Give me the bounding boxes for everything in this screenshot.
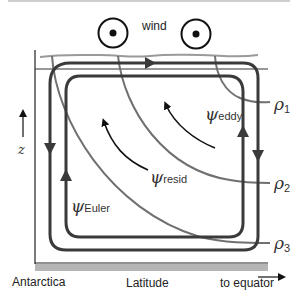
rho1-label: ρ1	[273, 94, 290, 115]
seafloor-bar	[35, 264, 268, 271]
rho2-label: ρ2	[273, 173, 290, 194]
psi-resid-label: ψresid	[150, 167, 187, 187]
resid-curved-arrow-icon	[104, 122, 148, 170]
isopycnal-rho3-line	[52, 56, 270, 243]
loop-arrow-right-icon	[145, 57, 156, 69]
sea-surface-line	[40, 55, 258, 57]
euler-outer-loop	[50, 63, 258, 250]
wind-symbol-left-icon	[99, 19, 128, 48]
antarctica-label: Antarctica	[12, 275, 66, 289]
psi-euler-label: ψEuler	[71, 196, 110, 216]
wind-label: wind	[141, 19, 167, 33]
wind-symbol-right-icon	[182, 20, 211, 49]
latitude-label: Latitude	[126, 276, 169, 290]
z-axis-label: z	[17, 142, 25, 157]
loop-arrow-down-left-icon	[44, 143, 56, 155]
rho3-label: ρ3	[273, 233, 290, 254]
loop-arrow-up-left-icon	[60, 169, 72, 181]
psi-eddy-label: ψeddy	[205, 104, 243, 124]
to-equator-label: to equator	[220, 276, 274, 290]
loop-arrow-down-right-icon	[252, 150, 264, 162]
southern-ocean-overturning-diagram: wind ψeddy ψresid ψEuler ρ1 ρ2 ρ3 z Anta…	[0, 0, 305, 302]
loop-arrow-up-right-icon	[237, 125, 249, 137]
